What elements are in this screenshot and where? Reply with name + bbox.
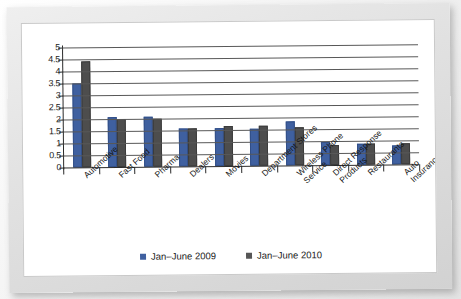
legend-swatch: [140, 253, 146, 259]
legend-item[interactable]: Jan–June 2010: [246, 249, 322, 261]
y-axis-tick: [59, 156, 64, 157]
bar: [179, 128, 188, 166]
photo-frame: 54.543.532.521.510.50 AutomotiveFast Foo…: [7, 3, 453, 293]
bar: [81, 62, 91, 168]
chart-plot-area: 54.543.532.521.510.50 AutomotiveFast Foo…: [22, 20, 437, 277]
legend-label: Jan–June 2010: [257, 249, 322, 261]
y-axis-tick: [58, 84, 63, 85]
y-axis-tick: [59, 144, 64, 145]
legend-swatch: [246, 252, 252, 258]
bar: [224, 126, 233, 166]
y-axis-tick: [58, 48, 63, 49]
bar: [250, 129, 259, 166]
chart-card: 54.543.532.521.510.50 AutomotiveFast Foo…: [21, 19, 437, 277]
y-axis-tick: [58, 96, 63, 97]
x-axis-category-labels: AutomotiveFast FoodPharmaDealersMoviesDe…: [63, 170, 420, 253]
chart-page: 54.543.532.521.510.50 AutomotiveFast Foo…: [0, 0, 461, 299]
bar: [188, 128, 197, 166]
y-axis-tick: [59, 108, 64, 109]
legend-label: Jan–June 2009: [151, 250, 216, 262]
y-axis-tick: [58, 60, 63, 61]
y-axis-tick-labels: 54.543.532.521.510.50: [26, 48, 61, 168]
y-axis-tick: [58, 72, 63, 73]
y-axis-tick: [59, 120, 64, 121]
y-axis-tick: [59, 132, 64, 133]
legend-item[interactable]: Jan–June 2009: [140, 250, 216, 262]
bar: [215, 128, 224, 166]
bar: [259, 126, 268, 166]
